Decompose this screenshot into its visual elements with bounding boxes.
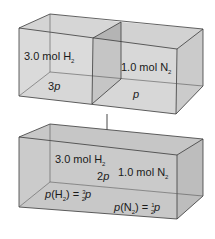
label-partial-pressure-n2: p(N2) = 12p (113, 201, 160, 215)
label-n2-pressure-before: p (132, 88, 139, 100)
label-h2-amount-after: 3.0 mol H2 (55, 153, 106, 167)
label-total-pressure-after: 2p (97, 170, 109, 182)
label-h2-amount-before: 3.0 mol H2 (24, 50, 75, 64)
box-after: 3.0 mol H2 1.0 mol N2 2p p(H2) = 32p p(N… (19, 124, 203, 219)
gas-mixing-diagram: 3.0 mol H2 1.0 mol N2 3p p 3.0 mol H2 (0, 0, 215, 239)
label-n2-amount-before: 1.0 mol N2 (121, 61, 172, 75)
label-h2-pressure-before: 3p (48, 80, 60, 92)
label-n2-amount-after: 1.0 mol N2 (118, 166, 169, 180)
label-partial-pressure-h2: p(H2) = 32p (44, 188, 91, 202)
box-before: 3.0 mol H2 1.0 mol N2 3p p (19, 14, 203, 114)
